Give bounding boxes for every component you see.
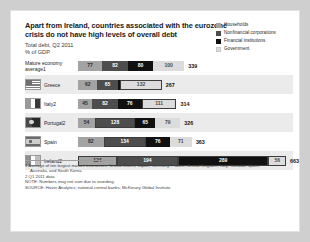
- chart-row: Greece62658132267: [25, 75, 287, 94]
- legend-item-label: Government: [224, 46, 249, 51]
- bar-segment-value: 100: [164, 63, 172, 68]
- bar-segment-value: 132: [137, 82, 145, 87]
- bar-segment-value: 77: [87, 63, 93, 68]
- row-label: Portugal2: [25, 113, 75, 132]
- bar-segment-value: 62: [85, 82, 91, 87]
- chart-subtitle: Total debt, Q2 2011: [25, 42, 230, 49]
- bar-segment: 76: [118, 99, 142, 109]
- legend-item-label: Nonfinancial corporations: [224, 30, 276, 35]
- bar-segment: 111: [142, 99, 177, 109]
- bar-segment-value: 134: [121, 139, 129, 144]
- footnote-divider: [25, 160, 113, 161]
- bar-segment-value: 79: [165, 120, 171, 125]
- row-label: Spain: [25, 132, 75, 151]
- row-label-text: Italy2: [44, 101, 56, 107]
- flag-greece-icon: [25, 79, 41, 90]
- bar-segment: 79: [155, 118, 180, 128]
- bar-segment: 65: [97, 80, 117, 90]
- bar-segment: 76: [146, 137, 170, 147]
- row-total: 363: [196, 137, 205, 147]
- row-label-text: Mature economy: [25, 60, 62, 66]
- chart-row: Portugal2541286579326: [25, 113, 287, 132]
- bar-segment: 77: [78, 61, 102, 71]
- row-total: 314: [181, 99, 190, 109]
- footnote-source: SOURCE: Haver Analytics; national centra…: [25, 185, 287, 190]
- bar-segment: 134: [104, 137, 146, 147]
- bar-segment: 71: [170, 137, 192, 147]
- bar-segment: 128: [95, 118, 135, 128]
- stacked-bar: 541286579: [78, 118, 180, 128]
- bar-segment: 62: [78, 80, 97, 90]
- legend-item: Government: [216, 46, 290, 52]
- flag-italy-icon: [25, 98, 41, 109]
- chart-card: Apart from Ireland, countries associated…: [11, 11, 299, 231]
- bar-segment: 45: [78, 99, 92, 109]
- bar-segment-value: 45: [82, 101, 88, 106]
- stacked-bar: 458276111: [78, 99, 176, 109]
- row-total: 267: [166, 80, 175, 90]
- page-title: Apart from Ireland, countries associated…: [25, 21, 230, 39]
- legend-swatch-government: [216, 47, 221, 52]
- bar-segment-value: 76: [155, 139, 161, 144]
- stacked-bar: 62658132: [78, 80, 162, 90]
- chart-row: Spain821347671363: [25, 132, 287, 151]
- row-label: Greece: [25, 75, 75, 94]
- legend-item: Nonfinancial corporations: [216, 30, 290, 36]
- row-label-text: Spain: [44, 139, 57, 145]
- row-label-text-line2: average1: [25, 66, 46, 72]
- bar-segment-value: 82: [112, 63, 118, 68]
- bar-segment: 132: [120, 80, 161, 90]
- bar-segment: 100: [153, 61, 184, 71]
- chart-row: Italy2458276111314: [25, 94, 287, 113]
- flag-portugal-icon: [25, 117, 41, 128]
- legend-item-label: Households: [224, 22, 248, 27]
- bar-segment-value: 65: [105, 82, 111, 87]
- stacked-bar: 821347671: [78, 137, 192, 147]
- bar-segment-value: 76: [127, 101, 133, 106]
- chart-row: Mature economyaverage1778280100339: [25, 56, 287, 75]
- row-label-text: Portugal2: [44, 120, 65, 126]
- bar-segment: 54: [78, 118, 95, 128]
- row-total: 663: [290, 156, 299, 166]
- legend-item-label: Financial institutions: [224, 38, 265, 43]
- bar-segment: 82: [102, 61, 128, 71]
- legend-item: Households: [216, 22, 290, 28]
- bar-segment: 82: [78, 137, 104, 147]
- row-total: 326: [184, 118, 193, 128]
- chart-plot-area: Mature economyaverage1778280100339Greece…: [25, 56, 287, 170]
- bar-segment-value: 82: [102, 101, 108, 106]
- chart-legend: HouseholdsNonfinancial corporationsFinan…: [216, 22, 290, 54]
- bar-segment: 82: [92, 99, 118, 109]
- bar-segment-value: 65: [143, 120, 149, 125]
- chart-header: Apart from Ireland, countries associated…: [25, 21, 230, 56]
- bar-segment-value: 80: [138, 63, 144, 68]
- footnotes: 1 Average of ten largest mature economie…: [25, 163, 287, 190]
- bar-segment: 80: [128, 61, 153, 71]
- bar-segment-value: 111: [155, 101, 163, 106]
- bar-segment-value: 128: [111, 120, 119, 125]
- legend-item: Financial institutions: [216, 38, 290, 44]
- row-label-text: Greece: [44, 82, 60, 88]
- stacked-bar: 778280100: [78, 61, 184, 71]
- legend-swatch-households: [216, 23, 221, 28]
- legend-swatch-nonfinancial: [216, 31, 221, 36]
- row-label: Mature economyaverage1: [25, 56, 75, 75]
- bar-segment-value: 54: [84, 120, 90, 125]
- row-total: 339: [188, 61, 197, 71]
- legend-swatch-financial: [216, 39, 221, 44]
- bar-segment-value: 82: [88, 139, 94, 144]
- bar-segment: 65: [135, 118, 155, 128]
- flag-spain-icon: [25, 136, 41, 147]
- row-label: Italy2: [25, 94, 75, 113]
- bar-segment-value: 71: [178, 139, 184, 144]
